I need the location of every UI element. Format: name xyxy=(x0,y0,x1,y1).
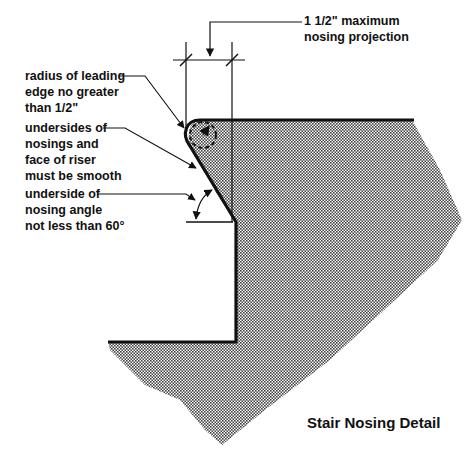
radius-line-2: edge no greater xyxy=(25,84,125,100)
smooth-line-1: undersides of xyxy=(25,120,122,136)
angle-arc xyxy=(196,190,212,219)
radius-callout: radius of leading edge no greater than 1… xyxy=(25,68,125,116)
radius-line-3: than 1/2" xyxy=(25,100,125,116)
angle-callout: underside of nosing angle not less than … xyxy=(25,186,124,234)
projection-line-2: nosing projection xyxy=(304,29,409,45)
angle-line-3: not less than 60° xyxy=(25,218,124,234)
stair-section-fill xyxy=(108,120,462,445)
projection-line-1: 1 1/2" maximum xyxy=(304,13,409,29)
smooth-line-3: face of riser xyxy=(25,152,122,168)
leader-projection xyxy=(210,22,302,56)
leader-radius xyxy=(119,76,184,128)
projection-callout: 1 1/2" maximum nosing projection xyxy=(304,13,409,45)
smooth-line-2: nosings and xyxy=(25,136,122,152)
angle-line-2: nosing angle xyxy=(25,202,124,218)
smooth-callout: undersides of nosings and face of riser … xyxy=(25,120,122,184)
diagram-title: Stair Nosing Detail xyxy=(307,414,440,431)
stair-nosing-diagram: 1 1/2" maximum nosing projection radius … xyxy=(0,0,465,463)
smooth-line-4: must be smooth xyxy=(25,168,122,184)
radius-line-1: radius of leading xyxy=(25,68,125,84)
angle-line-1: underside of xyxy=(25,186,124,202)
